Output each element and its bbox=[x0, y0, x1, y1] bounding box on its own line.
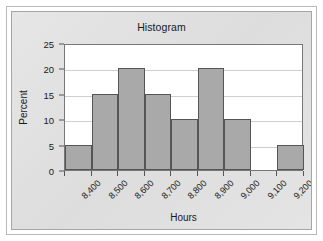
histogram-bar bbox=[145, 94, 172, 170]
y-axis-ticks: 0510152025 bbox=[12, 44, 64, 171]
x-tick-label: 8,500 bbox=[106, 178, 129, 201]
plot-area bbox=[64, 44, 303, 171]
x-tick-label: 8,600 bbox=[133, 178, 156, 201]
x-tick-label: 8,400 bbox=[80, 178, 103, 201]
histogram-bar bbox=[224, 119, 251, 170]
x-tick-label: 8,900 bbox=[212, 178, 235, 201]
figure-panel: Histogram Percent 0510152025 8,4008,5008… bbox=[11, 11, 312, 230]
x-tick-mark bbox=[197, 171, 198, 176]
x-tick-mark bbox=[276, 171, 277, 176]
figure-outer-frame: Histogram Percent 0510152025 8,4008,5008… bbox=[6, 6, 317, 235]
x-tick-mark bbox=[91, 171, 92, 176]
x-tick-label: 9,200 bbox=[292, 178, 312, 201]
x-tick-mark bbox=[223, 171, 224, 176]
x-tick-label: 9,000 bbox=[239, 178, 262, 201]
bars-layer bbox=[65, 45, 302, 170]
x-tick-mark bbox=[64, 171, 65, 176]
x-axis-title: Hours bbox=[64, 212, 303, 223]
x-tick-label: 8,700 bbox=[159, 178, 182, 201]
x-tick-mark bbox=[117, 171, 118, 176]
x-axis-ticks: 8,4008,5008,6008,7008,8008,9009,0009,100… bbox=[64, 171, 303, 217]
histogram-bar bbox=[277, 145, 304, 170]
histogram-bar bbox=[198, 68, 225, 170]
histogram-bar bbox=[171, 119, 198, 170]
y-tick-label: 15 bbox=[43, 89, 54, 100]
x-tick-label: 9,100 bbox=[265, 178, 288, 201]
y-tick-label: 5 bbox=[49, 140, 54, 151]
x-tick-label: 8,800 bbox=[186, 178, 209, 201]
chart-title: Histogram bbox=[12, 21, 311, 33]
y-tick-label: 25 bbox=[43, 39, 54, 50]
histogram-bar bbox=[65, 145, 92, 170]
x-tick-mark bbox=[144, 171, 145, 176]
x-tick-mark bbox=[170, 171, 171, 176]
histogram-bar bbox=[118, 68, 145, 170]
x-tick-mark bbox=[303, 171, 304, 176]
y-tick-label: 20 bbox=[43, 64, 54, 75]
y-tick-label: 10 bbox=[43, 115, 54, 126]
histogram-bar bbox=[92, 94, 119, 170]
y-tick-label: 0 bbox=[49, 166, 54, 177]
x-tick-mark bbox=[250, 171, 251, 176]
